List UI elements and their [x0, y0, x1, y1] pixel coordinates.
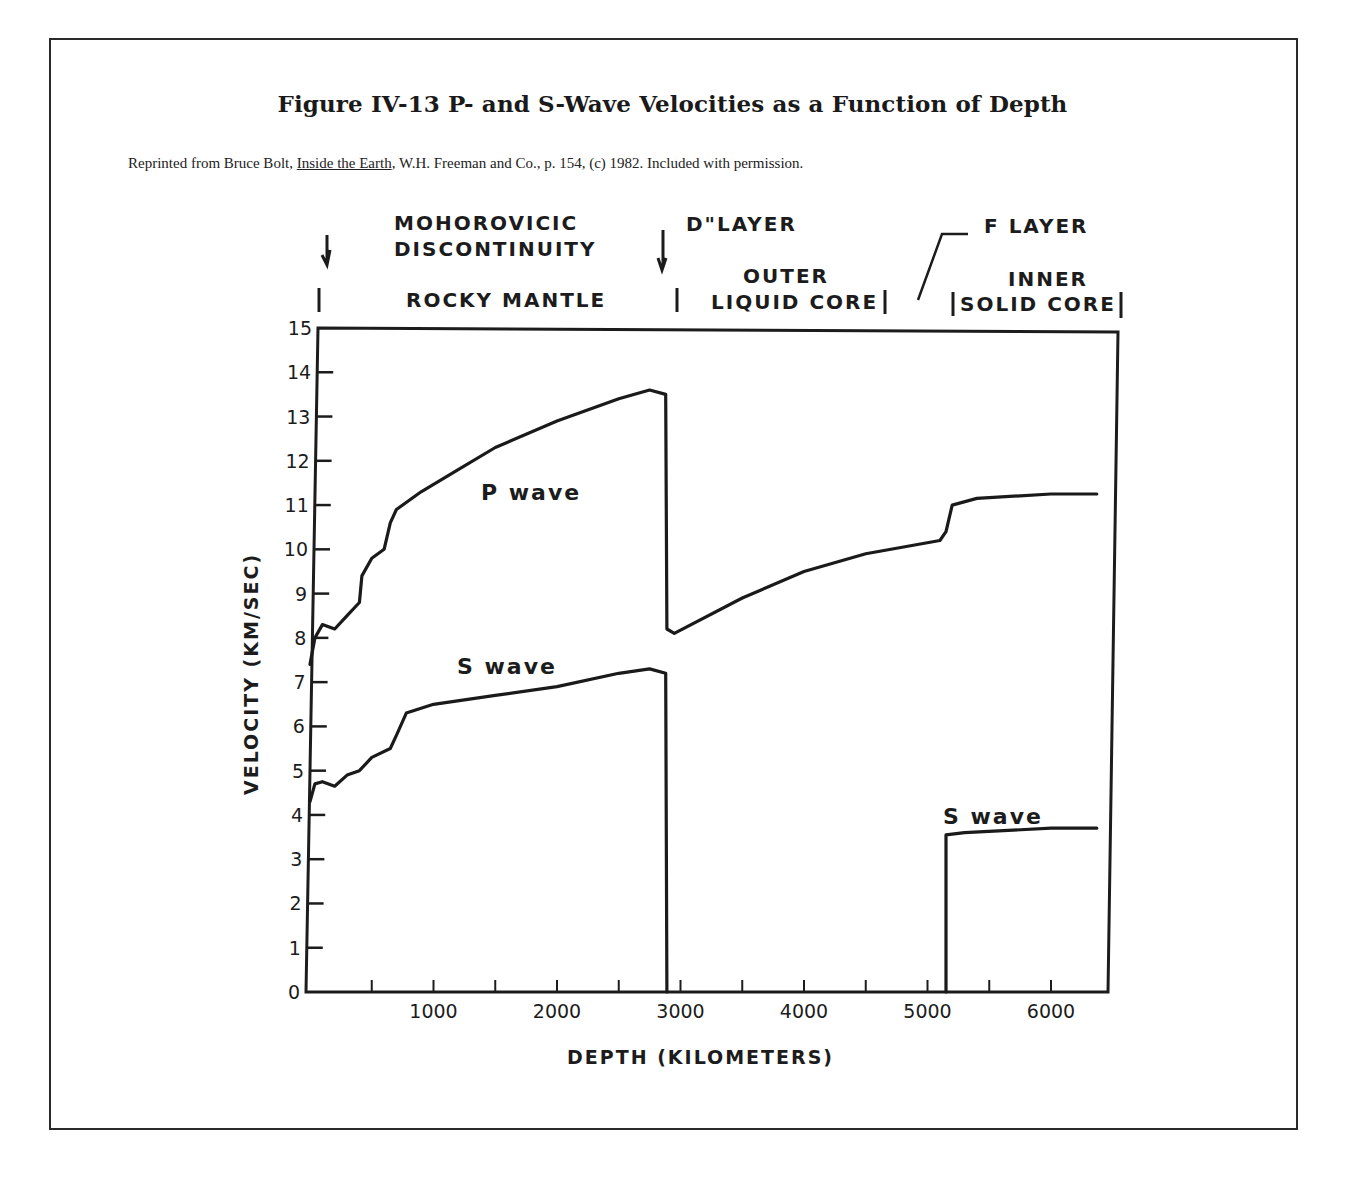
y-tick-label: 0	[288, 981, 300, 1003]
y-tick-label: 12	[285, 450, 309, 472]
y-tick-label: 11	[285, 494, 309, 516]
y-tick-label: 15	[288, 317, 312, 339]
y-tick-label: 7	[294, 671, 306, 693]
moho-label-line1: MOHOROVICIC	[394, 211, 578, 235]
y-tick-label: 9	[295, 583, 307, 605]
f-layer-leader-line	[918, 234, 968, 300]
y-tick-label: 10	[284, 538, 308, 560]
s-wave-mantle-label: S wave	[457, 654, 557, 679]
x-tick-label: 4000	[780, 1000, 828, 1022]
plot-frame	[306, 328, 1118, 992]
x-tick-label: 5000	[903, 1000, 951, 1022]
d-layer-label: D"LAYER	[686, 212, 797, 236]
f-layer-label: F LAYER	[984, 214, 1088, 238]
y-tick-label: 5	[292, 760, 304, 782]
x-tick-label: 6000	[1027, 1000, 1075, 1022]
y-tick-label: 1	[289, 937, 301, 959]
series-group	[310, 390, 1097, 992]
d-layer-arrow-icon	[658, 230, 666, 270]
moho-arrow-icon	[322, 235, 330, 265]
s-wave-core-label: S wave	[943, 804, 1043, 829]
s-wave-inner-core-curve	[946, 828, 1097, 992]
outer-core-label-line1: OUTER	[743, 264, 829, 288]
y-tick-label: 14	[287, 361, 311, 383]
y-tick-label: 2	[290, 892, 302, 914]
rocky-mantle-label: ROCKY MANTLE	[406, 288, 606, 312]
y-tick-label: 4	[291, 804, 303, 826]
y-tick-label: 3	[290, 848, 302, 870]
region-annotations: MOHOROVICIC DISCONTINUITY D"LAYER F LAYE…	[319, 211, 1121, 318]
inner-core-label-line1: INNER	[1008, 267, 1088, 291]
velocity-chart: 0123456789101112131415 10002000300040005…	[0, 0, 1345, 1178]
y-tick-label: 13	[286, 406, 310, 428]
x-axis-title: DEPTH (KILOMETERS)	[567, 1046, 834, 1068]
x-tick-label: 3000	[656, 1000, 704, 1022]
inner-core-label-line2: SOLID CORE	[960, 292, 1116, 316]
moho-label-line2: DISCONTINUITY	[394, 237, 597, 261]
y-axis-title: VELOCITY (KM/SEC)	[240, 553, 262, 795]
y-tick-label: 6	[293, 715, 305, 737]
x-tick-label: 1000	[409, 1000, 457, 1022]
s-wave-mantle-curve	[310, 669, 667, 992]
outer-core-label-line2: LIQUID CORE	[711, 290, 878, 314]
p-wave-curve	[310, 390, 1097, 664]
x-axis-ticks: 100020003000400050006000	[372, 980, 1075, 1022]
y-tick-label: 8	[294, 627, 306, 649]
p-wave-label: P wave	[481, 480, 581, 505]
x-tick-label: 2000	[533, 1000, 581, 1022]
